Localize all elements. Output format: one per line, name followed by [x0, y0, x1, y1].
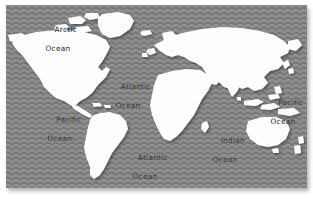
land-japan-b: [288, 68, 294, 74]
land-iceland: [140, 30, 152, 36]
land-arctic-islands-b: [84, 13, 100, 20]
land-madagascar: [201, 121, 209, 133]
land-new-zealand-a: [298, 136, 304, 144]
land-arctic-islands-c: [54, 24, 70, 31]
land-sri-lanka: [237, 97, 241, 101]
land-new-zealand-b: [294, 145, 301, 154]
land-indonesia-c: [268, 94, 280, 100]
land-tasmania: [272, 148, 279, 153]
land-british-isles-a: [146, 48, 156, 55]
land-central-america: [70, 104, 92, 118]
land-caribbean-a: [92, 103, 102, 107]
world-map-page: Arctic Ocean Atlantic Ocean Pacific Ocea…: [0, 0, 313, 200]
land-australia: [246, 117, 290, 147]
land-south-america: [84, 112, 128, 179]
land-arctic-islands-a: [68, 16, 86, 24]
land-caribbean-b: [104, 105, 111, 108]
land-greenland: [98, 12, 134, 38]
land-japan-a: [282, 60, 290, 69]
map-plate: Arctic Ocean Atlantic Ocean Pacific Ocea…: [6, 5, 307, 188]
land-indonesia-a: [244, 99, 264, 106]
land-new-guinea: [278, 108, 300, 116]
land-kamchatka: [288, 39, 302, 51]
landmass-layer: [6, 5, 307, 188]
land-philippines: [274, 86, 282, 94]
land-north-america: [12, 30, 110, 105]
land-indonesia-b: [260, 103, 280, 110]
land-british-isles-b: [142, 53, 148, 57]
